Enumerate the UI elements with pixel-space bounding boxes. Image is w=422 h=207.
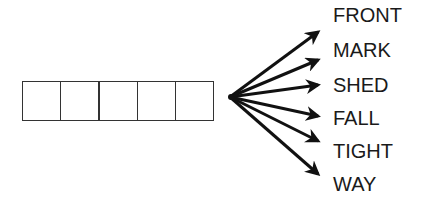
word-tight: TIGHT bbox=[333, 140, 393, 162]
word-shed: SHED bbox=[333, 74, 389, 96]
arrow-icon bbox=[230, 97, 318, 116]
word-mark: MARK bbox=[333, 39, 391, 61]
word-front: FRONT bbox=[333, 4, 402, 26]
word-puzzle-diagram: FRONT MARK SHED FALL TIGHT WAY bbox=[0, 0, 422, 207]
word-fall: FALL bbox=[333, 107, 380, 129]
word-way: WAY bbox=[333, 173, 376, 195]
